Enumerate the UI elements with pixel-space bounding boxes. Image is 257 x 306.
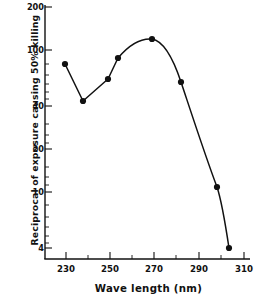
- x-axis-title: Wave length (nm): [40, 283, 257, 294]
- data-point: [105, 76, 111, 82]
- data-point: [62, 61, 68, 67]
- x-tick-label-290: 290: [186, 264, 212, 274]
- data-point: [214, 184, 220, 190]
- data-line-series: [65, 39, 229, 248]
- data-point: [226, 245, 232, 251]
- x-tick-label-230: 230: [53, 264, 79, 274]
- y-tick-label-200: 200: [22, 2, 44, 12]
- data-point: [149, 36, 155, 42]
- data-point-markers: [62, 36, 232, 251]
- x-tick-label-250: 250: [97, 264, 123, 274]
- x-tick-label-270: 270: [141, 264, 167, 274]
- y-axis-ticks: [45, 7, 52, 248]
- data-point: [80, 98, 86, 104]
- x-axis-ticks: [66, 252, 244, 259]
- data-point: [115, 55, 121, 61]
- y-axis-title: Reciprocal of exposure causing 50% killi…: [29, 26, 40, 246]
- x-tick-label-310: 310: [231, 264, 257, 274]
- chart-figure: 200 100 40 20 10 4 230 250 270 290 310 R…: [0, 0, 257, 306]
- data-point: [178, 79, 184, 85]
